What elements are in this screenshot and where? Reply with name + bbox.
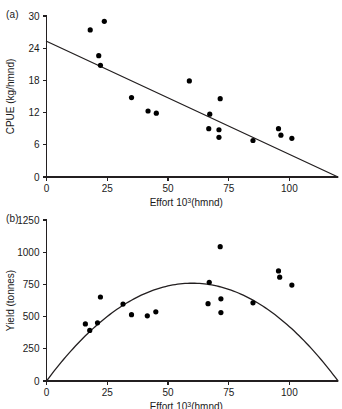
data-point: [102, 19, 107, 24]
x-axis-title-base: Effort 10: [150, 401, 188, 409]
data-point: [276, 126, 281, 131]
y-axis-title: Yield (tonnes): [5, 270, 16, 331]
x-axis-title: Effort 103(hmnd): [150, 401, 223, 409]
data-point: [289, 282, 294, 287]
y-tick-label: 12: [28, 107, 40, 118]
data-point: [218, 296, 223, 301]
data-point: [88, 27, 93, 32]
data-point: [218, 244, 223, 249]
data-point: [129, 95, 134, 100]
y-axis-title: CPUE (kg/hmnd): [5, 59, 16, 135]
x-tick-label: 100: [281, 183, 298, 194]
y-tick-label: 1250: [17, 215, 40, 226]
panel-a-plot: 06121824300255075100Effort 103(hmnd)CPUE…: [0, 0, 342, 205]
data-point: [120, 302, 125, 307]
data-point: [98, 294, 103, 299]
data-point: [145, 108, 150, 113]
data-point: [187, 78, 192, 83]
data-point: [250, 300, 255, 305]
data-point: [206, 126, 211, 131]
data-point: [277, 275, 282, 280]
x-tick-label: 25: [102, 387, 114, 398]
panel-b-plot: 0250500750100012500255075100Effort 103(h…: [0, 204, 342, 409]
data-point: [205, 301, 210, 306]
y-tick-label: 1000: [17, 247, 40, 258]
x-tick-label: 0: [44, 183, 50, 194]
y-tick-label: 0: [34, 172, 40, 183]
data-point: [145, 313, 150, 318]
data-point: [207, 280, 212, 285]
x-tick-label: 25: [102, 183, 114, 194]
data-point: [218, 96, 223, 101]
y-tick-label: 500: [23, 311, 40, 322]
data-point: [87, 328, 92, 333]
data-point: [83, 321, 88, 326]
data-point: [289, 136, 294, 141]
y-tick-label: 6: [34, 139, 40, 150]
x-tick-label: 0: [44, 387, 50, 398]
axis-lines: [47, 16, 339, 177]
data-point: [276, 268, 281, 273]
x-tick-label: 50: [162, 183, 174, 194]
data-point: [96, 53, 101, 58]
data-point: [216, 135, 221, 140]
y-tick-label: 18: [28, 75, 40, 86]
data-point: [250, 138, 255, 143]
panel-b: (b) 0250500750100012500255075100Effort 1…: [0, 204, 342, 409]
data-point: [153, 309, 158, 314]
data-point: [278, 133, 283, 138]
axis-lines: [47, 220, 339, 381]
fit-curve: [47, 41, 339, 177]
figure-container: (a) 06121824300255075100Effort 103(hmnd)…: [0, 0, 342, 409]
x-tick-label: 100: [281, 387, 298, 398]
data-point: [154, 111, 159, 116]
data-point: [98, 63, 103, 68]
data-point: [216, 127, 221, 132]
y-tick-label: 750: [23, 279, 40, 290]
y-tick-label: 24: [28, 43, 40, 54]
data-point: [218, 310, 223, 315]
data-point: [207, 112, 212, 117]
x-tick-label: 75: [223, 387, 235, 398]
x-axis-title-suffix: (hmnd): [191, 401, 223, 409]
x-tick-label: 75: [223, 183, 235, 194]
data-point: [129, 312, 134, 317]
y-tick-label: 0: [34, 376, 40, 387]
y-tick-label: 250: [23, 343, 40, 354]
panel-a: (a) 06121824300255075100Effort 103(hmnd)…: [0, 0, 342, 205]
y-tick-label: 30: [28, 11, 40, 22]
x-tick-label: 50: [162, 387, 174, 398]
data-point: [95, 320, 100, 325]
